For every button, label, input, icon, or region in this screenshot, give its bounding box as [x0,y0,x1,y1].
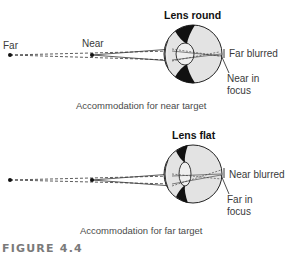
blur-annotation: Near blurred [229,169,285,180]
focus-annotation-line1: Far in [227,194,253,205]
far-label: Far [3,40,18,51]
panel-near-accommodation [8,25,229,83]
panel-far-accommodation [8,145,229,203]
figure-label: FIGURE 4.4 [2,242,83,255]
panel-title: Lens round [164,10,221,21]
far-point [8,178,12,182]
near-point [90,53,94,57]
lens-round [176,43,194,65]
accommodation-diagram [0,0,288,256]
focus-annotation-line2: focus [227,206,251,217]
panel-caption: Accommodation for far target [80,225,203,236]
far-point [8,53,12,57]
blur-annotation: Far blurred [229,48,278,59]
focus-annotation-line1: Near in [227,73,259,84]
panel-caption: Accommodation for near target [76,100,206,111]
near-label: Near [82,38,104,49]
focus-annotation-line2: focus [227,85,251,96]
near-point [90,178,94,182]
eyeball-icon [164,25,222,83]
panel-title: Lens flat [172,130,215,141]
